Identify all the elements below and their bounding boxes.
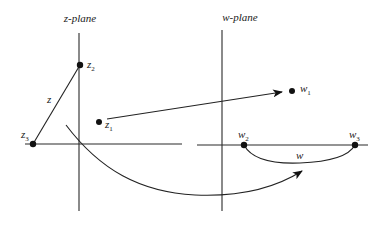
z1-point (96, 119, 102, 125)
z2-label: z2 (86, 58, 95, 73)
z3-point (30, 141, 36, 147)
z-plane-title: z-plane (63, 12, 97, 24)
z-segment-label: z (46, 93, 52, 105)
z2-point (77, 62, 83, 68)
w-plane-title: w-plane (222, 11, 258, 23)
z3-label: z3 (20, 128, 29, 143)
z1-label: z1 (104, 118, 113, 133)
w1-point (289, 88, 295, 94)
map-arrow-z1-to-w1 (107, 92, 282, 119)
w1-label: w1 (300, 82, 311, 97)
w3-label: w3 (349, 128, 360, 143)
w-arc-label: w (296, 149, 304, 161)
conformal-mapping-diagram: z-plane z z2 z1 z3 w-plane w w1 w2 w3 (0, 0, 385, 232)
w2-label: w2 (238, 128, 249, 143)
z-segment (33, 65, 80, 144)
